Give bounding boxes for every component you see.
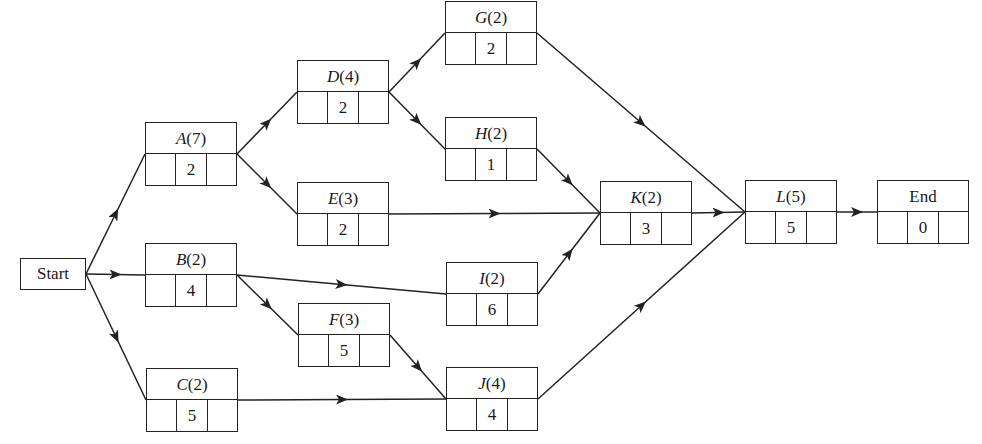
activity-letter: A <box>176 129 186 148</box>
cell-right <box>208 400 237 431</box>
node-cells: 4 <box>146 275 236 306</box>
cell-right <box>207 275 236 306</box>
node-cells: 0 <box>878 212 968 243</box>
activity-duration: (2) <box>186 250 206 269</box>
cell-right <box>359 92 388 123</box>
node-cells: 5 <box>746 212 836 243</box>
edge-b-to-f <box>237 275 298 335</box>
node-b: B(2)4 <box>145 243 237 307</box>
node-e: E(3)2 <box>297 182 389 246</box>
edge-a-to-e <box>237 154 297 214</box>
cell-mid: 2 <box>475 33 506 64</box>
cell-mid: 2 <box>327 214 358 245</box>
node-cells: 4 <box>447 399 537 430</box>
edge-a-to-d <box>237 92 297 154</box>
node-i: I(2)6 <box>446 262 538 326</box>
node-title: B(2) <box>146 244 236 275</box>
edge-b-to-i <box>237 275 446 294</box>
activity-letter: G <box>475 8 487 27</box>
activity-duration: End <box>909 187 936 206</box>
edge-i-to-k <box>538 213 600 294</box>
cell-right <box>207 154 236 185</box>
cell-left <box>746 212 775 243</box>
cell-right <box>508 294 537 325</box>
edge-e-to-k <box>389 213 600 214</box>
node-title: L(5) <box>746 181 836 212</box>
cell-right <box>359 214 388 245</box>
cell-mid: 5 <box>775 212 806 243</box>
node-g: G(2)2 <box>445 1 537 65</box>
edge-h-to-k <box>537 149 600 213</box>
cell-mid: 4 <box>476 399 507 430</box>
node-title: C(2) <box>147 369 237 400</box>
activity-letter: C <box>176 375 187 394</box>
node-title: End <box>878 181 968 212</box>
cell-left <box>878 212 907 243</box>
node-start: Start <box>20 258 86 290</box>
cell-mid: 5 <box>176 400 207 431</box>
node-title: A(7) <box>146 123 236 154</box>
node-cells: 2 <box>298 92 388 123</box>
node-cells: 2 <box>298 214 388 245</box>
activity-duration: (2) <box>487 124 507 143</box>
edge-start-to-a <box>86 154 145 274</box>
cell-right <box>662 213 691 244</box>
cell-mid: 6 <box>476 294 507 325</box>
cell-right <box>807 212 836 243</box>
node-cells: 1 <box>446 149 536 180</box>
node-c: C(2)5 <box>146 368 238 432</box>
cell-right <box>508 399 537 430</box>
cell-left <box>447 294 476 325</box>
activity-duration: (7) <box>186 129 206 148</box>
node-f: F(3)5 <box>298 303 390 367</box>
cell-left <box>146 275 175 306</box>
cell-left <box>298 214 327 245</box>
activity-letter: L <box>776 187 785 206</box>
activity-letter: E <box>328 189 338 208</box>
cell-right <box>939 212 968 243</box>
cell-left <box>299 335 328 366</box>
edge-d-to-h <box>389 92 445 149</box>
edge-start-to-c <box>86 274 146 400</box>
edge-d-to-g <box>389 33 445 92</box>
edge-start-to-b <box>86 274 145 275</box>
cell-mid: 5 <box>328 335 359 366</box>
node-cells: 5 <box>299 335 389 366</box>
node-j: J(4)4 <box>446 367 538 431</box>
node-l: L(5)5 <box>745 180 837 244</box>
node-title: E(3) <box>298 183 388 214</box>
node-cells: 3 <box>601 213 691 244</box>
cell-mid: 2 <box>327 92 358 123</box>
node-title: D(4) <box>298 61 388 92</box>
activity-letter: J <box>478 374 486 393</box>
node-cells: 6 <box>447 294 537 325</box>
cell-right <box>507 149 536 180</box>
activity-letter: F <box>329 310 339 329</box>
cell-mid: 1 <box>475 149 506 180</box>
activity-letter: B <box>176 250 186 269</box>
activity-duration: (2) <box>487 8 507 27</box>
cell-left <box>146 154 175 185</box>
node-a: A(7)2 <box>145 122 237 186</box>
edge-c-to-j <box>238 399 446 400</box>
node-end: End0 <box>877 180 969 244</box>
edge-k-to-l <box>692 212 745 213</box>
activity-duration: (4) <box>486 374 506 393</box>
activity-letter: H <box>475 124 487 143</box>
activity-duration: (3) <box>338 189 358 208</box>
cell-left <box>447 399 476 430</box>
node-cells: 5 <box>147 400 237 431</box>
node-cells: 2 <box>446 33 536 64</box>
node-title: F(3) <box>299 304 389 335</box>
cell-left <box>147 400 176 431</box>
activity-duration: (2) <box>485 269 505 288</box>
activity-duration: (2) <box>188 375 208 394</box>
activity-letter: K <box>630 188 641 207</box>
node-cells: 2 <box>146 154 236 185</box>
edge-f-to-j <box>390 335 446 399</box>
node-title: G(2) <box>446 2 536 33</box>
node-k: K(2)3 <box>600 181 692 245</box>
node-title: J(4) <box>447 368 537 399</box>
cell-left <box>446 149 475 180</box>
cell-mid: 2 <box>175 154 206 185</box>
